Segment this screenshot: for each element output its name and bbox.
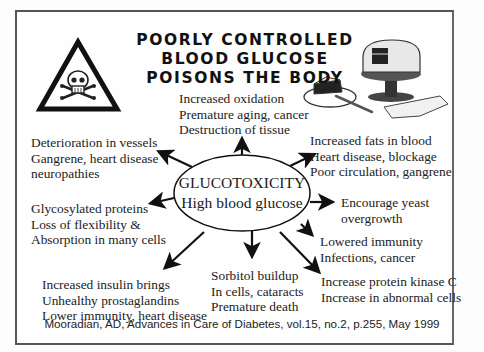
center-node-subtitle: High blood glucose bbox=[174, 193, 310, 213]
effect-text: In cells, cataracts bbox=[211, 284, 304, 300]
arrow-bottom-right bbox=[280, 232, 318, 271]
skull-crossbones-icon bbox=[60, 71, 96, 100]
effect-text: Increased fats in blood bbox=[310, 133, 452, 149]
effect-text: Glycosylated proteins bbox=[31, 201, 166, 217]
effect-text: Premature death bbox=[211, 299, 304, 315]
title-line-1: POORLY CONTROLLED bbox=[130, 31, 360, 50]
effect-top: Increased oxidation Premature aging, can… bbox=[179, 91, 309, 138]
effect-text: Destruction of tissue bbox=[179, 122, 309, 138]
effect-text: Gangrene, heart disease bbox=[31, 151, 159, 167]
effect-text: Premature aging, cancer bbox=[179, 107, 309, 123]
warning-triangle-icon bbox=[40, 42, 117, 109]
effect-text: Increased insulin brings bbox=[42, 277, 207, 293]
effect-text: overgrowth bbox=[341, 211, 429, 227]
effect-text: Increase in abnormal cells bbox=[321, 290, 461, 306]
center-node: GLUCOTOXICITY High blood glucose bbox=[174, 155, 310, 231]
effect-text: Deterioration in vessels bbox=[31, 135, 159, 151]
effect-text: Absorption in many cells bbox=[31, 232, 166, 248]
effect-bottom: Sorbitol buildup In cells, cataracts Pre… bbox=[211, 268, 304, 315]
effect-text: neuropathies bbox=[31, 166, 159, 182]
effect-text: Poor circulation, gangrene bbox=[310, 164, 452, 180]
citation: Mooradian, AD, Advances in Care of Diabe… bbox=[0, 317, 484, 330]
arrow-bottom-left bbox=[166, 232, 204, 267]
effect-upper-left: Deterioration in vessels Gangrene, heart… bbox=[31, 135, 159, 182]
effect-left: Glycosylated proteins Loss of flexibilit… bbox=[31, 201, 166, 248]
effect-bottom-right: Increase protein kinase C Increase in ab… bbox=[321, 274, 461, 305]
effect-text: Infections, cancer bbox=[320, 250, 423, 266]
effect-text: Loss of flexibility & bbox=[31, 217, 166, 233]
effect-upper-right: Increased fats in blood Heart disease, b… bbox=[310, 133, 452, 180]
diagram-title: POORLY CONTROLLED BLOOD GLUCOSE POISONS … bbox=[130, 31, 360, 88]
center-node-title: GLUCOTOXICITY bbox=[174, 173, 310, 193]
effect-text: Unhealthy prostaglandins bbox=[42, 293, 207, 309]
title-line-2: BLOOD GLUCOSE bbox=[130, 50, 360, 69]
effect-text: Sorbitol buildup bbox=[211, 268, 304, 284]
effect-text: Increase protein kinase C bbox=[321, 274, 461, 290]
effect-text: Heart disease, blockage bbox=[310, 149, 452, 165]
effect-text: Increased oxidation bbox=[179, 91, 309, 107]
title-line-3: POISONS THE BODY bbox=[130, 69, 360, 88]
effect-right: Encourage yeast overgrowth bbox=[341, 195, 429, 226]
effect-text: Lowered immunity bbox=[320, 234, 423, 250]
effect-text: Encourage yeast bbox=[341, 195, 429, 211]
effect-lower-right: Lowered immunity Infections, cancer bbox=[320, 234, 423, 265]
